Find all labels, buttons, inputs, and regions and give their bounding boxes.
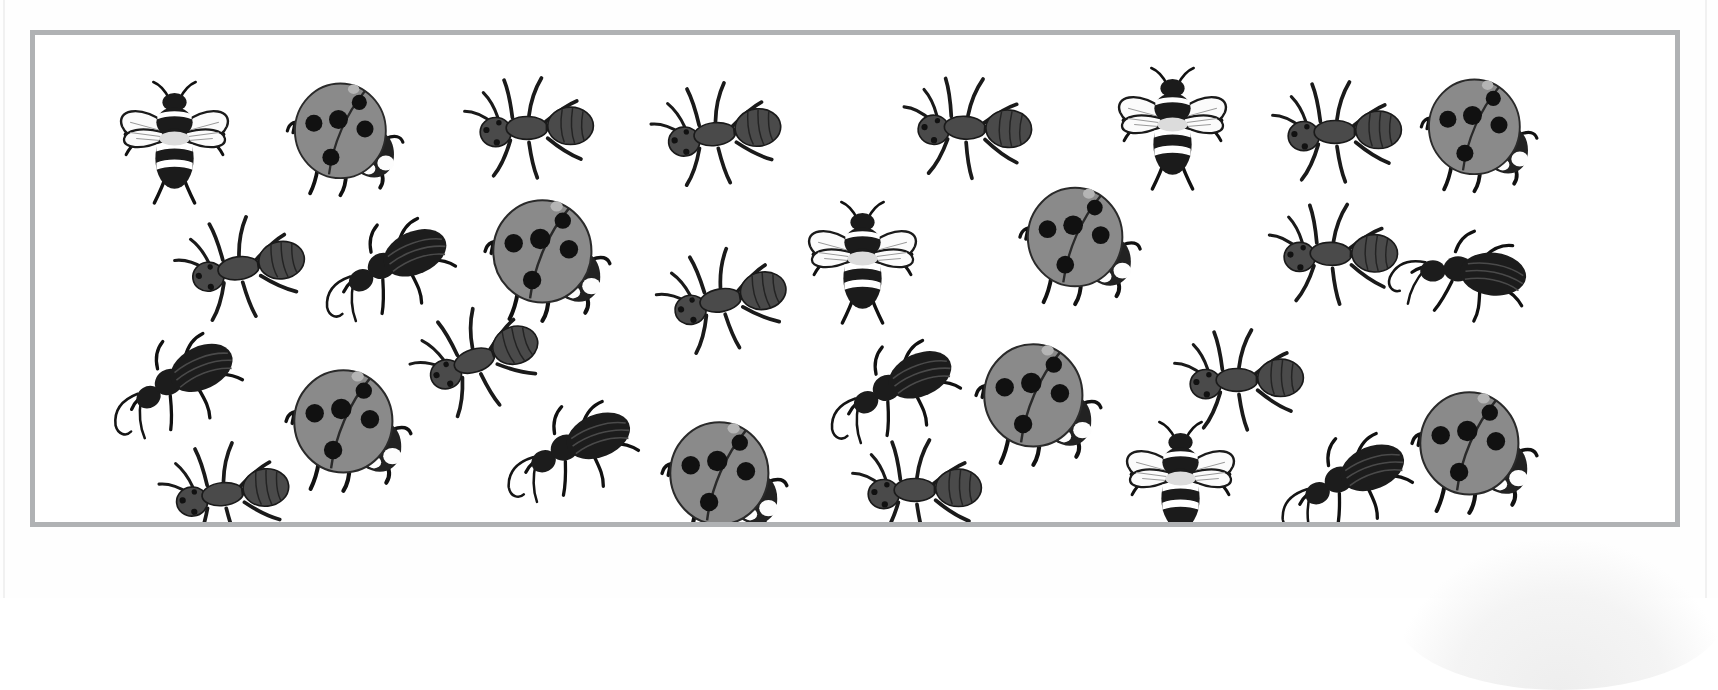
scan-shadow-blob [1395,540,1718,690]
insect-activity-frame [30,30,1680,527]
scan-page-edge-right [1705,0,1707,598]
ladybug-2-icon[interactable] [1416,70,1546,195]
cut-off-text-row [0,0,1718,14]
beetle-2-icon[interactable] [1375,199,1550,345]
ant-11-icon[interactable] [842,438,992,522]
ant-4-icon[interactable] [1262,80,1412,188]
ant-2-icon[interactable] [637,74,797,197]
insect-canvas [35,35,1675,522]
beetle-1-icon[interactable] [304,200,473,334]
bee-2-icon[interactable] [1090,68,1255,193]
ant-3-icon[interactable] [888,71,1045,189]
ant-1-icon[interactable] [454,76,604,184]
ant-10-icon[interactable] [145,434,305,522]
ant-5-icon[interactable] [159,206,323,334]
bee-1-icon[interactable] [92,82,257,207]
ladybug-5-icon[interactable] [278,360,423,495]
ladybug-1-icon[interactable] [282,74,412,199]
beetle-3-icon[interactable] [90,313,261,451]
beetle-5-icon[interactable] [809,322,978,456]
ladybug-4-icon[interactable] [1012,178,1152,308]
bee-3-icon[interactable] [780,202,945,327]
ant-9-icon[interactable] [1164,328,1314,436]
scan-page-edge-left [3,0,5,598]
ladybug-7-icon[interactable] [1404,382,1549,517]
ladybug-8-icon[interactable] [654,412,799,522]
bee-4-icon[interactable] [1098,422,1263,522]
